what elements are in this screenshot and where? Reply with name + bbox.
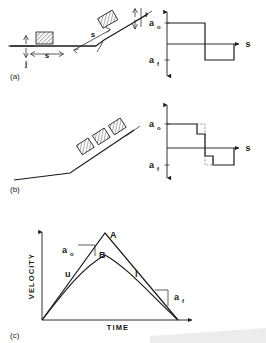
y-label-ao-a: a o: [149, 18, 161, 30]
y-label-ao-sub: o: [157, 24, 161, 30]
y-label-af-base-b: a: [149, 160, 155, 170]
track-extension-b: [126, 126, 140, 136]
block-upper-a: [98, 10, 118, 28]
acceleration-step-trace-a: [167, 23, 234, 60]
slope-label-af-sub: f: [182, 298, 185, 304]
x-axis-label-b: s: [245, 143, 250, 153]
scan-artifact: [150, 328, 266, 343]
y-axis-label-c: VELOCITY: [27, 253, 36, 299]
dimension-s-slope-a: s: [74, 27, 111, 53]
panel-tag-a: (a): [10, 72, 20, 81]
slope-label-ao-base: a: [62, 245, 68, 255]
label-l-c: l: [135, 269, 138, 279]
dimension-label-s2: s: [91, 30, 96, 39]
track-profile-a: [10, 14, 148, 46]
y-label-ao-base: a: [149, 18, 155, 28]
y-label-af-b: a f: [149, 160, 160, 172]
x-axis-label-a: s: [245, 39, 250, 49]
block-lower-a: [36, 32, 53, 44]
track-profile-b: [14, 130, 134, 180]
y-label-af-base: a: [149, 55, 155, 65]
chart-acceleration-multi: s a o a f: [149, 105, 251, 178]
technical-figure: s s j i (a): [0, 0, 266, 343]
block-row-b: [76, 118, 126, 155]
dimension-s-flat-a: s: [30, 51, 63, 60]
label-A-c: A: [110, 230, 117, 240]
y-label-af-sub: f: [157, 61, 160, 67]
panel-a-incline-geometry: s s j i: [8, 8, 152, 68]
label-u-c: u: [65, 269, 71, 279]
y-label-ao-sub-b: o: [157, 125, 161, 131]
x-axis-label-c: TIME: [107, 323, 129, 332]
slope-marker-ao-c: a o: [62, 245, 95, 257]
panel-tag-c: (c): [10, 331, 20, 340]
y-label-af-sub-b: f: [157, 166, 160, 172]
panel-tag-b: (b): [10, 185, 20, 194]
panel-b-incline-geometry: [14, 118, 140, 180]
dimension-label-s1: s: [45, 51, 50, 60]
chart-acceleration-single: s a o a f: [149, 12, 251, 76]
chart-velocity-time: VELOCITY TIME a o a f A B u l: [27, 230, 192, 332]
figure-canvas: s s j i (a): [0, 0, 266, 343]
dimension-label-j: j: [24, 59, 27, 68]
y-label-ao-base-b: a: [149, 119, 155, 129]
acceleration-step-trace-b: [167, 124, 234, 165]
label-B-c: B: [99, 250, 106, 260]
slope-label-ao-sub: o: [70, 251, 74, 257]
slope-label-af-base: a: [174, 292, 180, 302]
dimension-label-i: i: [145, 10, 147, 19]
y-label-af-a: a f: [149, 55, 160, 67]
y-label-ao-b: a o: [149, 119, 161, 131]
velocity-curve-rounded: [42, 255, 178, 320]
dimension-j-a: j: [8, 35, 34, 68]
